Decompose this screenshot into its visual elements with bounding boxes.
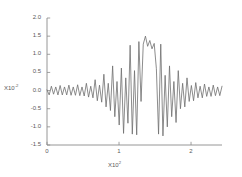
y-tick-label: 0.5 — [17, 68, 41, 74]
x-axis-ticks — [47, 142, 191, 145]
x-axis-label-exponent: 2 — [119, 160, 121, 165]
y-tick-label: 2.0 — [17, 14, 41, 20]
y-axis-ticks — [47, 18, 50, 145]
y-axis-label: X10-2 — [4, 83, 18, 91]
y-axis-label-text: X10 — [4, 85, 15, 91]
data-series-line — [47, 36, 222, 136]
x-axis-label-text: X10 — [108, 162, 119, 168]
x-axis-label: X102 — [108, 160, 121, 168]
y-tick-label: 1.0 — [17, 50, 41, 56]
y-tick-label: -1.0 — [17, 123, 41, 129]
y-tick-label: -0.5 — [17, 105, 41, 111]
x-tick-label: 2 — [185, 148, 197, 154]
y-axis-label-exponent: -2 — [15, 83, 19, 88]
y-tick-label: 1.5 — [17, 32, 41, 38]
y-tick-label: 0.0 — [17, 87, 41, 93]
x-tick-label: 0 — [41, 148, 53, 154]
y-tick-label: -1.5 — [17, 141, 41, 147]
x-tick-label: 1 — [113, 148, 125, 154]
chart-figure: -1.5-1.0-0.50.00.51.01.52.0 012 X10-2 X1… — [0, 0, 242, 177]
